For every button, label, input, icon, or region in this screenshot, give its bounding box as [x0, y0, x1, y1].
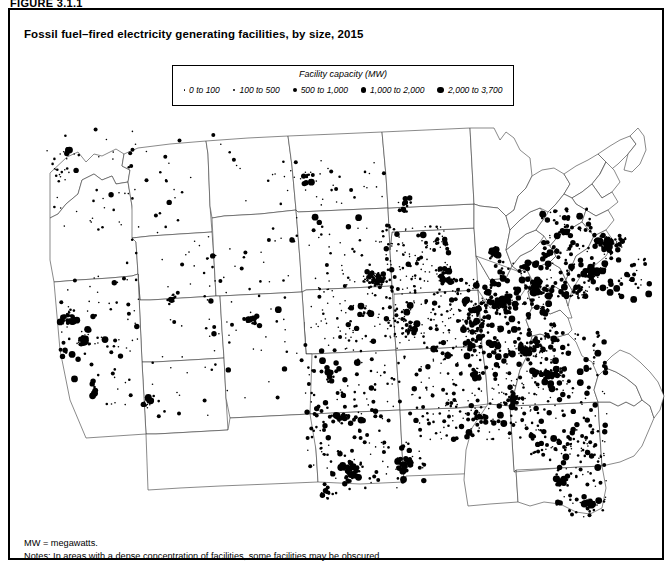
- facility-dot: [442, 278, 444, 280]
- facility-dot: [412, 321, 414, 323]
- facility-dot: [575, 497, 579, 501]
- facility-dot: [598, 334, 601, 337]
- facility-dot: [433, 319, 435, 321]
- facility-dot: [387, 243, 390, 246]
- facility-dot: [409, 463, 413, 467]
- facility-dot: [464, 342, 467, 345]
- facility-dot: [479, 352, 481, 354]
- facility-dot: [193, 265, 195, 267]
- facility-dot: [326, 289, 328, 291]
- facility-dot: [306, 176, 309, 179]
- facility-dot: [312, 214, 319, 221]
- facility-dot: [581, 494, 586, 499]
- facility-dot: [557, 332, 559, 334]
- facility-dot: [550, 269, 552, 271]
- facility-dot: [496, 308, 498, 310]
- facility-dot: [545, 443, 549, 447]
- facility-dot: [330, 471, 333, 474]
- facility-dot: [206, 257, 209, 260]
- facility-dot: [253, 321, 257, 325]
- facility-dot: [513, 305, 518, 310]
- facility-dot: [455, 338, 457, 340]
- facility-dot: [402, 288, 404, 290]
- facility-dot: [543, 376, 547, 380]
- facility-dot: [445, 434, 448, 437]
- facility-dot: [378, 430, 381, 433]
- facility-dot: [132, 340, 134, 342]
- facility-dot: [408, 412, 412, 416]
- facility-dot: [441, 241, 443, 243]
- facility-dot: [593, 233, 597, 237]
- facility-dot: [582, 449, 585, 452]
- facility-dot: [374, 383, 377, 386]
- facility-dot: [439, 412, 442, 415]
- facility-dot: [376, 274, 381, 279]
- facility-dot: [614, 238, 617, 241]
- facility-dot: [365, 305, 367, 307]
- facility-dot: [475, 423, 479, 427]
- facility-dot: [632, 273, 636, 277]
- facility-dot: [637, 287, 640, 290]
- facility-dot: [87, 340, 89, 342]
- facility-dot: [210, 253, 215, 258]
- facility-dot: [481, 390, 483, 392]
- facility-dot: [358, 429, 362, 433]
- facility-dot: [179, 395, 181, 397]
- facility-dot: [414, 291, 417, 294]
- facility-dot: [455, 406, 458, 409]
- legend-item: 0 to 100: [184, 85, 220, 95]
- facility-dot: [479, 420, 483, 424]
- facility-dot: [467, 319, 469, 321]
- facility-dot: [563, 456, 566, 459]
- facility-dot: [443, 237, 447, 241]
- facility-dot: [363, 392, 366, 395]
- facility-dot: [445, 405, 447, 407]
- facility-dot: [459, 372, 463, 376]
- facility-dot: [374, 470, 378, 474]
- facility-dot: [579, 248, 581, 250]
- facility-dot: [575, 243, 579, 247]
- facility-dot: [490, 420, 493, 423]
- facility-dot: [106, 403, 109, 406]
- facility-dot: [338, 335, 342, 339]
- facility-dot: [616, 257, 621, 262]
- facility-dot: [585, 417, 590, 422]
- facility-dot: [422, 264, 424, 266]
- facility-dot: [358, 417, 365, 424]
- facility-dot: [601, 247, 603, 249]
- facility-dot: [225, 292, 227, 294]
- facility-dot: [596, 504, 598, 506]
- facility-dot: [267, 180, 270, 183]
- facility-dot: [560, 234, 562, 236]
- facility-dot: [457, 362, 459, 364]
- facility-dot: [88, 301, 90, 303]
- facility-dot: [454, 384, 457, 387]
- facility-dot: [236, 165, 238, 167]
- facility-dot: [342, 481, 347, 486]
- facility-dot: [306, 436, 310, 440]
- facility-dot: [441, 351, 445, 355]
- facility-dot: [525, 277, 530, 282]
- facility-dot: [538, 429, 540, 431]
- facility-dot: [491, 438, 493, 440]
- facility-dot: [455, 400, 457, 402]
- facility-dot: [560, 278, 564, 282]
- facility-dot: [361, 466, 364, 469]
- facility-dot: [541, 357, 543, 359]
- facility-dot: [394, 335, 396, 337]
- facility-dot: [418, 368, 422, 372]
- facility-dot: [618, 234, 622, 238]
- facility-dot: [435, 225, 438, 228]
- facility-dot: [89, 286, 91, 288]
- facility-dot: [339, 303, 341, 305]
- facility-dot: [504, 316, 507, 319]
- facility-dot: [569, 443, 572, 446]
- facility-dot: [363, 186, 365, 188]
- facility-dot: [211, 133, 215, 137]
- facility-dot: [435, 269, 438, 272]
- us-map-svg: [20, 110, 666, 522]
- facility-dot: [415, 327, 417, 329]
- facility-dot: [361, 362, 363, 364]
- facility-dot: [383, 371, 386, 374]
- facility-dot: [535, 370, 538, 373]
